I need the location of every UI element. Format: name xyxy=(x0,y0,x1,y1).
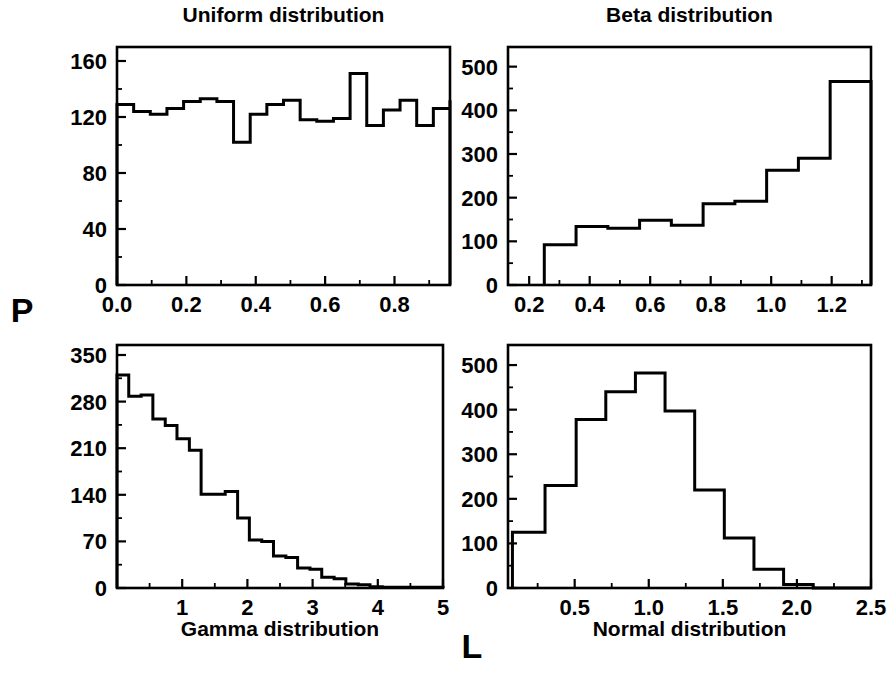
x-tick-label-beta-2: 0.6 xyxy=(635,292,666,317)
y-tick-label-gamma-1: 70 xyxy=(83,529,107,554)
x-tick-label-normal-4: 2.5 xyxy=(856,595,887,620)
y-tick-label-beta-4: 400 xyxy=(461,98,498,123)
x-tick-label-beta-1: 0.4 xyxy=(574,292,605,317)
panel-normal: 0.51.01.52.02.50100200300400500Normal di… xyxy=(461,345,886,640)
x-tick-label-beta-0: 0.2 xyxy=(514,292,545,317)
x-tick-label-uniform-3: 0.6 xyxy=(310,292,341,317)
plot-frame-uniform xyxy=(117,47,450,285)
panel-xlabel-gamma: Gamma distribution xyxy=(181,617,379,640)
y-tick-label-gamma-2: 140 xyxy=(70,483,107,508)
plot-frame-beta xyxy=(508,47,871,285)
y-tick-label-beta-1: 100 xyxy=(461,229,498,254)
y-tick-label-uniform-0: 0 xyxy=(95,273,107,298)
y-tick-label-normal-0: 0 xyxy=(486,576,498,601)
x-tick-label-uniform-4: 0.8 xyxy=(379,292,410,317)
y-tick-label-beta-5: 500 xyxy=(461,55,498,80)
x-tick-label-beta-3: 0.8 xyxy=(695,292,726,317)
y-tick-label-normal-2: 200 xyxy=(461,487,498,512)
panel-title-beta: Beta distribution xyxy=(606,3,773,26)
y-tick-label-uniform-4: 160 xyxy=(70,49,107,74)
panel-gamma: 12345070140210280350Gamma distribution xyxy=(70,343,449,640)
y-tick-label-uniform-3: 120 xyxy=(70,105,107,130)
shared-x-axis-label: L xyxy=(462,627,483,665)
panel-uniform: 0.00.20.40.60.804080120160Uniform distri… xyxy=(70,3,450,317)
panel-xlabel-normal: Normal distribution xyxy=(593,617,787,640)
x-tick-label-beta-4: 1.0 xyxy=(756,292,787,317)
plot-frame-gamma xyxy=(117,345,443,588)
panel-title-uniform: Uniform distribution xyxy=(183,3,385,26)
y-tick-label-normal-3: 300 xyxy=(461,442,498,467)
histogram-outline-gamma xyxy=(117,375,443,588)
histogram-outline-normal xyxy=(512,373,871,588)
shared-y-axis-label: P xyxy=(11,291,34,329)
histogram-outline-uniform xyxy=(117,74,450,285)
y-tick-label-normal-4: 400 xyxy=(461,398,498,423)
x-tick-label-uniform-1: 0.2 xyxy=(171,292,202,317)
x-tick-label-gamma-4: 5 xyxy=(437,595,449,620)
y-tick-label-normal-5: 500 xyxy=(461,353,498,378)
y-tick-label-gamma-0: 0 xyxy=(95,576,107,601)
x-tick-label-beta-5: 1.2 xyxy=(816,292,847,317)
panel-beta: 0.20.40.60.81.01.20100200300400500Beta d… xyxy=(461,3,871,317)
y-tick-label-beta-0: 0 xyxy=(486,273,498,298)
y-tick-label-beta-2: 200 xyxy=(461,186,498,211)
y-tick-label-beta-3: 300 xyxy=(461,142,498,167)
y-tick-label-gamma-5: 350 xyxy=(70,343,107,368)
y-tick-label-normal-1: 100 xyxy=(461,531,498,556)
x-tick-label-uniform-2: 0.4 xyxy=(240,292,271,317)
y-tick-label-gamma-3: 210 xyxy=(70,436,107,461)
y-tick-label-uniform-1: 40 xyxy=(83,217,107,242)
four-panel-histogram-figure: 0.00.20.40.60.804080120160Uniform distri… xyxy=(0,0,887,680)
plot-frame-normal xyxy=(508,345,871,588)
y-tick-label-uniform-2: 80 xyxy=(83,161,107,186)
y-tick-label-gamma-4: 280 xyxy=(70,390,107,415)
histogram-outline-beta xyxy=(544,82,871,286)
x-tick-label-normal-0: 0.5 xyxy=(559,595,590,620)
